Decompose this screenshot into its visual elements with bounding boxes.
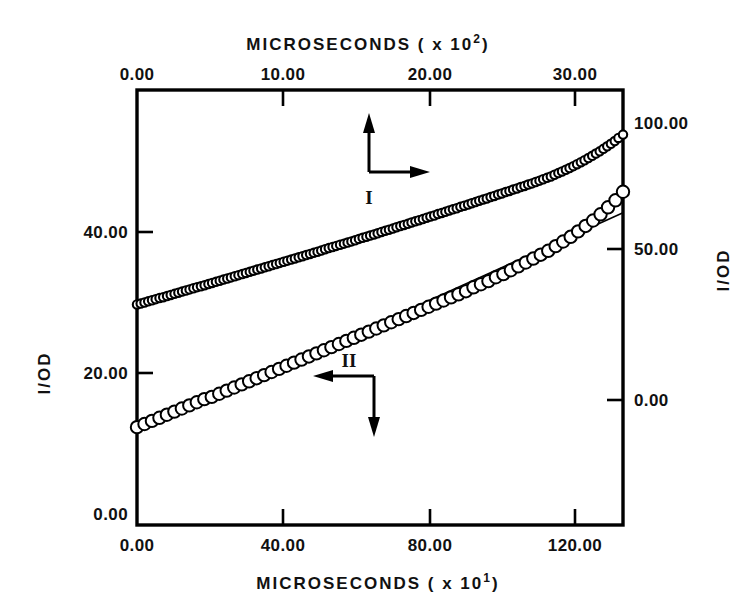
scientific-plot: 0.00 10.00 20.00 30.00 MICROSECONDS ( x … [0, 0, 755, 612]
right-axis-title: I/OD [714, 249, 733, 292]
top-axis-title-suffix: ) [482, 35, 490, 54]
series-one-points [133, 130, 627, 308]
bottom-tick-label-3: 120.00 [548, 536, 602, 555]
top-tick-label-2: 20.00 [408, 65, 453, 84]
series-two-label: II [342, 350, 357, 371]
left-tick-label-0: 0.00 [93, 505, 128, 524]
top-axis-title-exponent: 2 [473, 32, 482, 46]
data-point [619, 130, 627, 138]
arrow-right-icon [410, 166, 430, 178]
bottom-tick-label-2: 80.00 [408, 536, 453, 555]
bottom-axis-title-main: MICROSECONDS ( x 10 [256, 574, 483, 593]
bottom-axis-title-exponent: 1 [483, 571, 492, 585]
top-tick-label-0: 0.00 [120, 65, 155, 84]
right-tick-label-0: 0.00 [634, 391, 669, 410]
left-tick-label-20: 20.00 [83, 364, 128, 383]
series-two-annotation: II [313, 350, 380, 437]
series-one-annotation: I [363, 113, 430, 208]
top-axis-title: MICROSECONDS ( x 102) [246, 32, 489, 54]
arrow-left-icon [313, 370, 333, 382]
left-tick-label-40: 40.00 [83, 223, 128, 242]
right-axis: 100.00 50.00 0.00 I/OD [607, 114, 733, 410]
arrow-up-icon [363, 113, 375, 133]
bottom-tick-label-0: 0.00 [120, 536, 155, 555]
top-axis: 0.00 10.00 20.00 30.00 MICROSECONDS ( x … [120, 32, 598, 106]
bottom-axis: 0.00 40.00 80.00 120.00 MICROSECONDS ( x… [120, 509, 603, 593]
right-tick-label-50: 50.00 [634, 240, 679, 259]
plot-frame [137, 90, 623, 525]
data-point [617, 186, 629, 198]
top-tick-label-3: 30.00 [553, 65, 598, 84]
arrow-down-icon [368, 417, 380, 437]
top-axis-title-main: MICROSECONDS ( x 10 [246, 35, 473, 54]
bottom-axis-title: MICROSECONDS ( x 101) [256, 571, 499, 593]
figure-container: 0.00 10.00 20.00 30.00 MICROSECONDS ( x … [0, 0, 755, 612]
left-axis-title: I/OD [35, 352, 54, 395]
series-two-points [131, 186, 629, 434]
series-one-label: I [365, 187, 372, 208]
top-tick-label-1: 10.00 [261, 65, 306, 84]
bottom-axis-title-suffix: ) [492, 574, 500, 593]
bottom-tick-label-1: 40.00 [261, 536, 306, 555]
right-tick-label-100: 100.00 [634, 114, 688, 133]
